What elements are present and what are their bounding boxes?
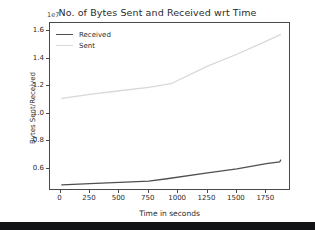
y-tick-label: 1.6 <box>18 26 44 34</box>
chart-figure: No. of Bytes Sent and Received wrt Time … <box>0 0 315 222</box>
legend-item: Sent <box>56 40 111 51</box>
chart-legend: ReceivedSent <box>53 26 117 54</box>
legend-label: Received <box>79 31 111 39</box>
y-axis-exponent-label: 1e7 <box>47 11 59 19</box>
bottom-black-bar <box>0 222 315 230</box>
series-line <box>62 160 281 185</box>
legend-line-swatch <box>56 34 73 35</box>
y-tick-label: 0.6 <box>18 164 44 172</box>
legend-line-swatch <box>56 45 73 46</box>
legend-label: Sent <box>79 42 95 50</box>
y-tick-label: 1.0 <box>18 109 44 117</box>
y-tick-label: 1.2 <box>18 81 44 89</box>
x-axis-label: Time in seconds <box>49 209 290 218</box>
legend-item: Received <box>56 29 111 40</box>
y-tick-label: 1.4 <box>18 54 44 62</box>
y-tick-label: 0.8 <box>18 136 44 144</box>
x-tick-label: 1750 <box>245 194 285 202</box>
